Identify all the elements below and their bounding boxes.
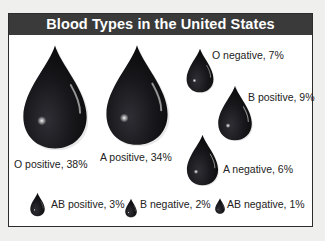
label-b-negative: B negative, 2% [140, 198, 211, 210]
drop-icon-a-positive [104, 44, 170, 146]
label-o-positive: O positive, 38% [14, 158, 88, 170]
drop-icon-o-positive [22, 44, 88, 150]
drop-icon-b-negative [125, 198, 137, 218]
label-a-negative: A negative, 6% [223, 163, 293, 175]
label-b-positive: B positive, 9% [248, 91, 315, 103]
drop-icon-o-negative [186, 45, 214, 96]
drop-icon-ab-positive [30, 191, 45, 218]
drop-icon-a-negative [185, 134, 220, 186]
label-o-negative: O negative, 7% [212, 49, 284, 61]
label-ab-positive: AB positive, 3% [51, 198, 125, 210]
drop-icon-ab-negative [215, 198, 225, 214]
chart-title: Blood Types in the United States [9, 14, 312, 35]
label-ab-negative: AB negative, 1% [227, 198, 305, 210]
label-a-positive: A positive, 34% [100, 151, 172, 163]
